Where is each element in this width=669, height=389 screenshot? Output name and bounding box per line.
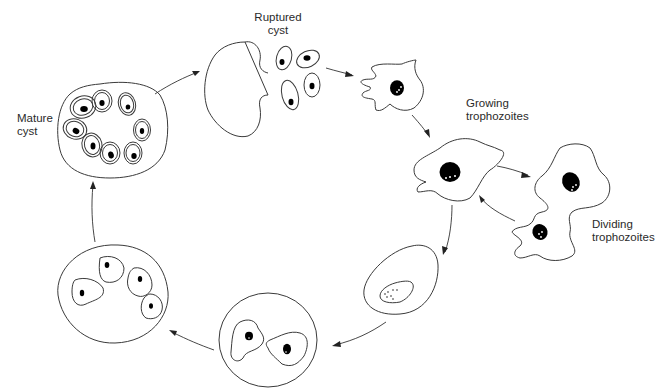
label-dividing-trophozoites: Dividing trophozoites — [592, 218, 655, 243]
label-dividing-trophozoites-line2: trophozoites — [592, 231, 655, 244]
binucleate-cyst — [219, 293, 317, 387]
growing-trophozoite — [414, 139, 504, 201]
precyst — [364, 245, 438, 314]
arrow-ruptured-to-young — [326, 68, 354, 77]
label-ruptured-cyst-line1: Ruptured — [250, 11, 306, 24]
quadrinucleate-cyst — [58, 245, 168, 343]
dividing-trophozoites — [512, 144, 610, 261]
label-ruptured-cyst: Ruptured cyst — [250, 11, 306, 36]
life-cycle-diagram: Mature cyst Ruptured cyst Growing tropho… — [0, 0, 669, 389]
label-growing-trophozoites-line1: Growing — [466, 97, 529, 110]
label-growing-trophozoites-line2: trophozoites — [466, 110, 529, 123]
label-mature-cyst-line2: cyst — [17, 125, 53, 138]
label-growing-trophozoites: Growing trophozoites — [466, 97, 529, 122]
young-trophozoite — [361, 60, 423, 111]
label-dividing-trophozoites-line1: Dividing — [592, 218, 655, 231]
label-mature-cyst: Mature cyst — [17, 112, 53, 137]
label-mature-cyst-line1: Mature — [17, 112, 53, 125]
arrow-precyst-to-binucleate — [332, 322, 386, 347]
arrow-growing-to-precyst — [442, 205, 452, 255]
arrow-dividing-to-growing — [479, 195, 515, 221]
arrow-mature-to-ruptured — [155, 71, 200, 94]
mature-cyst — [58, 82, 168, 178]
arrow-young-to-growing — [412, 115, 430, 138]
label-ruptured-cyst-line2: cyst — [250, 24, 306, 37]
arrow-quadrinucleate-to-mature — [90, 181, 96, 242]
ruptured-cyst — [205, 42, 323, 137]
arrow-growing-to-dividing — [497, 166, 531, 178]
arrow-binucleate-to-quadrinucleate — [169, 330, 214, 350]
diagram-canvas — [0, 0, 669, 389]
